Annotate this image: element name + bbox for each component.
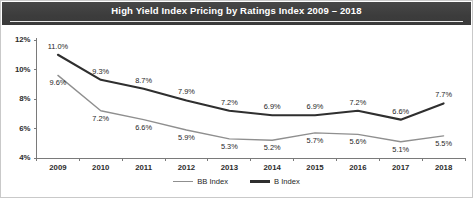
chart-title-bar: High Yield Index Pricing by Ratings Inde… (2, 2, 471, 25)
x-axis-tick-label: 2011 (123, 163, 165, 172)
data-label-b-index: 7.2% (341, 98, 375, 107)
legend-line-swatch-bb-index (173, 181, 193, 183)
data-label-b-index: 8.7% (127, 76, 161, 85)
y-axis-tick-label: 6% (1, 124, 31, 133)
y-axis-tick-label: 10% (1, 65, 31, 74)
x-axis-tick-label: 2013 (208, 163, 250, 172)
data-label-bb-index: 5.9% (169, 133, 203, 142)
x-axis-tick-label: 2014 (251, 163, 293, 172)
data-label-b-index: 9.3% (84, 67, 118, 76)
data-label-b-index: 7.2% (212, 98, 246, 107)
chart-figure: High Yield Index Pricing by Ratings Inde… (0, 0, 473, 198)
data-label-bb-index: 6.6% (127, 123, 161, 132)
x-axis-tick-label: 2015 (294, 163, 336, 172)
chart-plot-area: 12%10%8%6%4% 200920102011201220132014201… (1, 25, 472, 197)
legend-line-swatch-b-index (250, 180, 270, 183)
y-axis-tick-label: 12% (1, 35, 31, 44)
chart-legend: BB Index B Index (1, 177, 472, 186)
chart-axes (34, 38, 466, 161)
data-label-bb-index: 5.3% (212, 142, 246, 151)
data-label-b-index: 6.9% (255, 102, 289, 111)
data-label-bb-index: 5.5% (427, 139, 461, 148)
y-axis-tick-label: 4% (1, 153, 31, 162)
data-label-bb-index: 5.6% (341, 137, 375, 146)
data-label-bb-index: 5.7% (298, 136, 332, 145)
x-axis-tick-label: 2018 (423, 163, 465, 172)
title-underline-rule (10, 21, 463, 22)
data-label-b-index: 7.7% (427, 90, 461, 99)
data-label-bb-index: 7.2% (84, 114, 118, 123)
data-label-b-index: 7.9% (169, 87, 203, 96)
data-label-b-index: 6.9% (298, 102, 332, 111)
x-axis-tick-label: 2010 (80, 163, 122, 172)
data-label-bb-index: 9.6% (41, 78, 75, 87)
data-label-bb-index: 5.2% (255, 143, 289, 152)
x-axis-tick-label: 2012 (165, 163, 207, 172)
x-axis-tick-label: 2009 (37, 163, 79, 172)
legend-item-b-index[interactable]: B Index (250, 177, 300, 186)
data-label-b-index: 6.6% (384, 107, 418, 116)
x-axis-tick-label: 2016 (337, 163, 379, 172)
page-title: High Yield Index Pricing by Ratings Inde… (2, 5, 471, 17)
legend-item-bb-index[interactable]: BB Index (173, 177, 228, 186)
data-label-b-index: 11.0% (41, 42, 75, 51)
data-label-bb-index: 5.1% (384, 145, 418, 154)
legend-label-b-index: B Index (274, 177, 300, 186)
x-axis-tick-label: 2017 (380, 163, 422, 172)
legend-label-bb-index: BB Index (197, 177, 228, 186)
y-axis-tick-label: 8% (1, 94, 31, 103)
